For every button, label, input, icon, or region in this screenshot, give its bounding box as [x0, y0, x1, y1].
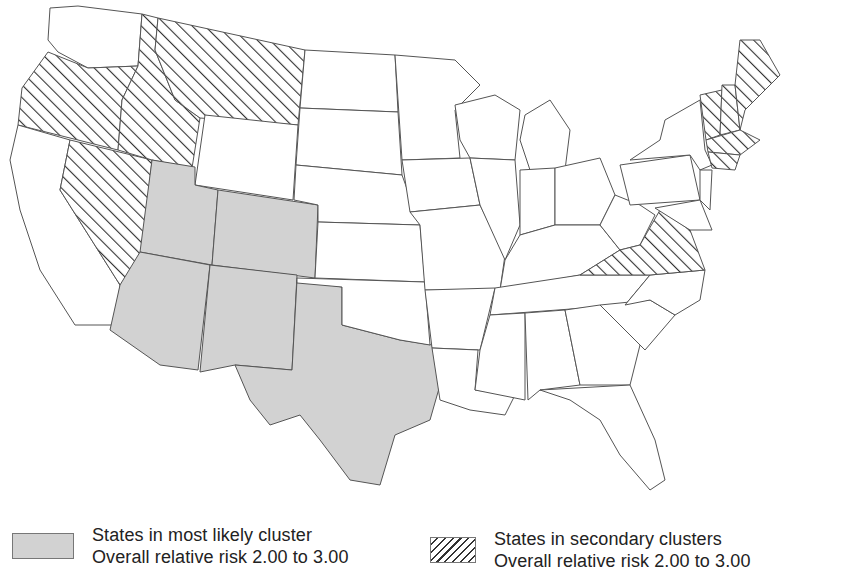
state-indiana	[520, 168, 555, 235]
state-colorado	[212, 190, 318, 278]
state-new-mexico	[200, 265, 297, 372]
state-iowa	[402, 158, 480, 212]
state-michigan	[520, 100, 570, 170]
state-north-dakota	[300, 50, 398, 112]
gray-fill-swatch	[12, 533, 74, 559]
state-south-dakota	[296, 108, 402, 175]
legend-label: States in secondary clusters	[494, 528, 751, 550]
state-wisconsin	[455, 95, 520, 160]
legend-item-secondary-clusters: States in secondary clusters Overall rel…	[430, 528, 751, 572]
legend-text: States in most likely cluster Overall re…	[92, 524, 349, 568]
us-cluster-map	[0, 0, 843, 500]
state-kansas	[315, 222, 425, 282]
state-florida	[540, 385, 665, 490]
state-wyoming	[195, 115, 298, 200]
legend-text: States in secondary clusters Overall rel…	[494, 528, 751, 572]
state-pennsylvania	[620, 155, 700, 205]
state-maine	[735, 40, 780, 130]
legend-risk: Overall relative risk 2.00 to 3.00	[494, 550, 751, 572]
legend-label: States in most likely cluster	[92, 524, 349, 546]
legend-item-most-likely-cluster: States in most likely cluster Overall re…	[12, 524, 349, 568]
state-connecticut-rhode-island	[708, 152, 740, 170]
legend-risk: Overall relative risk 2.00 to 3.00	[92, 546, 349, 568]
map-legend: States in most likely cluster Overall re…	[0, 520, 843, 581]
diagonal-hatch-swatch	[430, 537, 476, 563]
